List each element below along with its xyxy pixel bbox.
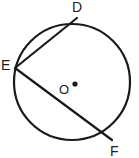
point-label-d: D (72, 0, 82, 14)
chord-ef-line (15, 68, 112, 140)
circle-outline (14, 24, 130, 140)
point-label-f: F (110, 144, 119, 158)
geometry-figure: D E F O (0, 0, 139, 158)
geometry-canvas (0, 0, 139, 158)
point-label-e: E (1, 58, 10, 72)
center-label-o: O (59, 83, 69, 96)
center-point-dot (72, 81, 77, 86)
chord-ed-line (15, 18, 77, 68)
